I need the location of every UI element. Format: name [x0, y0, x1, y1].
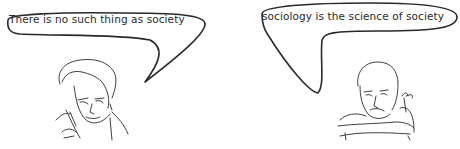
right-speech-text: sociology is the science of society	[262, 10, 444, 22]
left-speech-text: There is no such thing as society	[9, 13, 185, 25]
woman-figure	[56, 60, 128, 141]
cartoon-stage: There is no such thing as society sociol…	[0, 0, 460, 149]
man-figure	[338, 62, 414, 140]
